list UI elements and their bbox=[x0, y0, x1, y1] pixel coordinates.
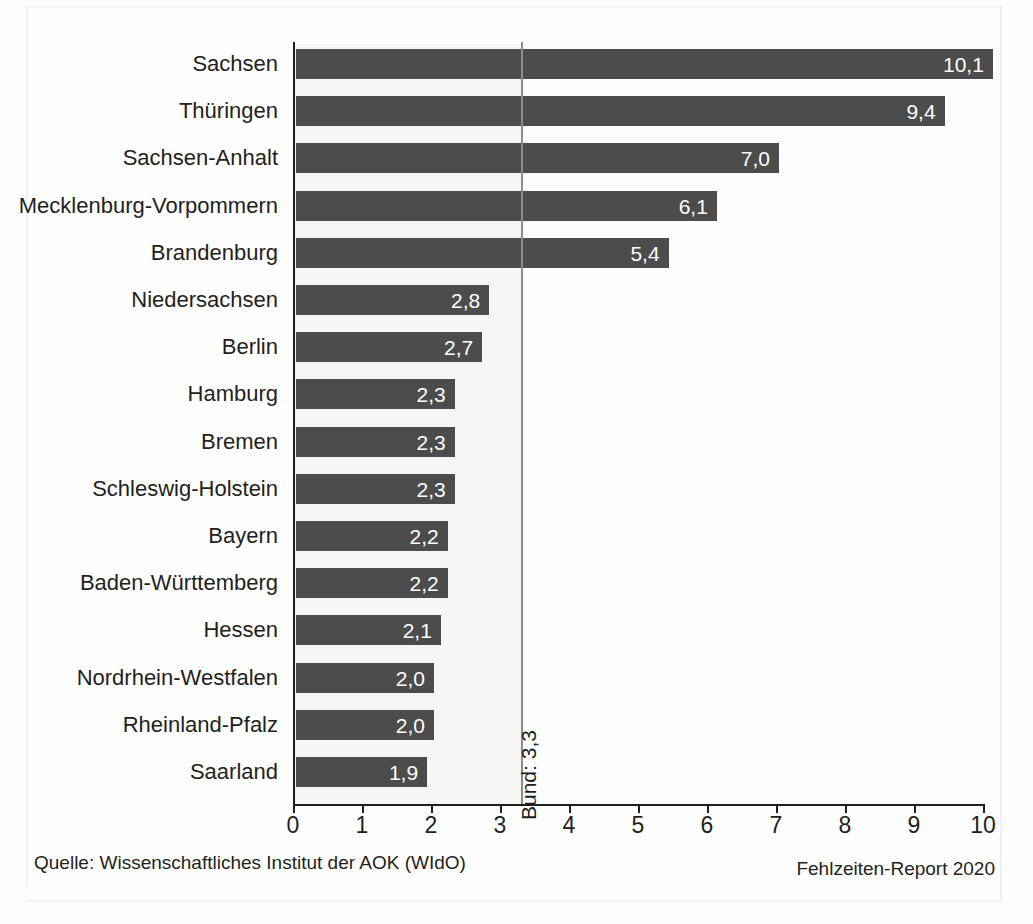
category-label: Brandenburg bbox=[8, 240, 288, 266]
bar-row: Niedersachsen2,8 bbox=[0, 285, 1033, 315]
bar: 6,1 bbox=[296, 191, 717, 221]
bar-row: Hessen2,1 bbox=[0, 615, 1033, 645]
bar-value-label: 7,0 bbox=[741, 148, 770, 169]
bar: 2,3 bbox=[296, 427, 455, 457]
category-label: Mecklenburg-Vorpommern bbox=[8, 193, 288, 219]
page-border-bottom bbox=[26, 900, 1001, 902]
bar: 7,0 bbox=[296, 143, 779, 173]
bar-row: Sachsen-Anhalt7,0 bbox=[0, 143, 1033, 173]
category-label: Schleswig-Holstein bbox=[8, 476, 288, 502]
reference-line bbox=[521, 42, 523, 804]
bar-value-label: 1,9 bbox=[389, 762, 418, 783]
bar-row: Hamburg2,3 bbox=[0, 379, 1033, 409]
x-tick-label: 4 bbox=[549, 812, 589, 839]
category-label: Nordrhein-Westfalen bbox=[8, 665, 288, 691]
report-note: Fehlzeiten-Report 2020 bbox=[796, 858, 995, 880]
category-label: Bremen bbox=[8, 429, 288, 455]
bar: 2,0 bbox=[296, 710, 434, 740]
category-label: Hamburg bbox=[8, 381, 288, 407]
bar: 2,1 bbox=[296, 615, 441, 645]
bar: 2,0 bbox=[296, 663, 434, 693]
category-label: Berlin bbox=[8, 334, 288, 360]
bar-value-label: 5,4 bbox=[630, 242, 659, 263]
bar-row: Bremen2,3 bbox=[0, 427, 1033, 457]
bar: 2,2 bbox=[296, 521, 448, 551]
category-label: Niedersachsen bbox=[8, 287, 288, 313]
bar: 9,4 bbox=[296, 96, 945, 126]
bar: 5,4 bbox=[296, 238, 669, 268]
reference-line-label: Bund: 3,3 bbox=[517, 730, 541, 820]
category-label: Rheinland-Pfalz bbox=[8, 712, 288, 738]
plot-area: Sachsen10,1Thüringen9,4Sachsen-Anhalt7,0… bbox=[0, 0, 1033, 845]
bar-value-label: 10,1 bbox=[943, 54, 984, 75]
category-label: Bayern bbox=[8, 523, 288, 549]
x-tick-label: 1 bbox=[342, 812, 382, 839]
x-tick-label: 0 bbox=[273, 812, 313, 839]
bar-row: Baden-Württemberg2,2 bbox=[0, 568, 1033, 598]
category-label: Sachsen-Anhalt bbox=[8, 145, 288, 171]
bar-value-label: 2,2 bbox=[410, 526, 439, 547]
bar: 2,2 bbox=[296, 568, 448, 598]
figure-footer: Quelle: Wissenschaftliches Institut der … bbox=[0, 852, 1033, 892]
x-tick-label: 7 bbox=[756, 812, 796, 839]
bar: 2,8 bbox=[296, 285, 489, 315]
x-tick-label: 2 bbox=[411, 812, 451, 839]
bar-value-label: 2,2 bbox=[410, 573, 439, 594]
bar-value-label: 6,1 bbox=[679, 195, 708, 216]
bar: 10,1 bbox=[296, 49, 993, 79]
bar-value-label: 2,1 bbox=[403, 620, 432, 641]
x-tick-label: 10 bbox=[963, 812, 1003, 839]
bar-value-label: 2,3 bbox=[416, 384, 445, 405]
category-label: Baden-Württemberg bbox=[8, 570, 288, 596]
bar-value-label: 2,3 bbox=[416, 431, 445, 452]
bar-value-label: 9,4 bbox=[906, 101, 935, 122]
x-tick-label: 8 bbox=[825, 812, 865, 839]
bar-row: Berlin2,7 bbox=[0, 332, 1033, 362]
x-tick-label: 9 bbox=[894, 812, 934, 839]
bar-row: Thüringen9,4 bbox=[0, 96, 1033, 126]
bar-value-label: 2,0 bbox=[396, 667, 425, 688]
bar-row: Nordrhein-Westfalen2,0 bbox=[0, 663, 1033, 693]
bar-value-label: 2,8 bbox=[451, 290, 480, 311]
bar-row: Bayern2,2 bbox=[0, 521, 1033, 551]
bar-row: Brandenburg5,4 bbox=[0, 238, 1033, 268]
bar-value-label: 2,0 bbox=[396, 714, 425, 735]
category-label: Hessen bbox=[8, 617, 288, 643]
source-note: Quelle: Wissenschaftliches Institut der … bbox=[34, 852, 466, 874]
category-label: Sachsen bbox=[8, 51, 288, 77]
bar-value-label: 2,7 bbox=[444, 337, 473, 358]
bar-row: Mecklenburg-Vorpommern6,1 bbox=[0, 191, 1033, 221]
y-axis-line bbox=[293, 42, 295, 804]
x-tick-label: 6 bbox=[687, 812, 727, 839]
x-tick-label: 5 bbox=[618, 812, 658, 839]
bar-value-label: 2,3 bbox=[416, 478, 445, 499]
x-tick-label: 3 bbox=[480, 812, 520, 839]
category-label: Saarland bbox=[8, 759, 288, 785]
bar-row: Schleswig-Holstein2,3 bbox=[0, 474, 1033, 504]
bar: 2,7 bbox=[296, 332, 482, 362]
category-label: Thüringen bbox=[8, 98, 288, 124]
chart-figure: Sachsen10,1Thüringen9,4Sachsen-Anhalt7,0… bbox=[0, 0, 1033, 924]
bar: 2,3 bbox=[296, 474, 455, 504]
bar: 2,3 bbox=[296, 379, 455, 409]
bar: 1,9 bbox=[296, 757, 427, 787]
bar-row: Sachsen10,1 bbox=[0, 49, 1033, 79]
